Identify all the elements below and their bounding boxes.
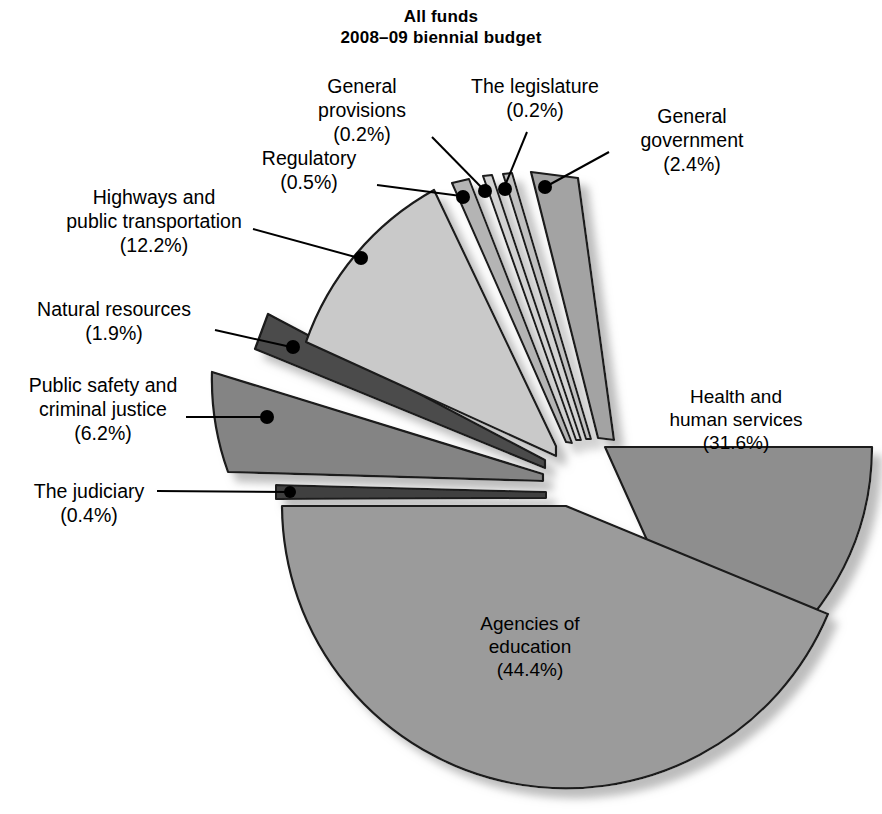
leader-dot-judiciary (284, 486, 296, 498)
leader-dot-the-legislature (498, 182, 512, 196)
callout-natural-resources-value: (1.9%) (16, 321, 212, 345)
slice-label-health-and-human-services: Health and human services (31.6%) (638, 385, 834, 454)
callout-general-provisions-line1: General (287, 74, 437, 98)
leader-dot-highways (354, 251, 368, 265)
pie-slice-the-judiciary[interactable] (276, 485, 546, 499)
leader-line-highways (253, 229, 359, 258)
callout-general-government-value: (2.4%) (601, 152, 783, 176)
leader-dot-public-safety (260, 410, 274, 424)
callout-highways-value: (12.2%) (56, 233, 252, 257)
leader-dot-natural-resources (286, 340, 300, 354)
pie-chart: All funds 2008–09 biennial budget (0, 0, 882, 814)
callout-the-judiciary-value: (0.4%) (22, 503, 156, 527)
slice-label-health-line2: human services (638, 408, 834, 431)
callout-highways-line2: public transportation (56, 209, 252, 233)
callout-general-government: General government (2.4%) (601, 104, 783, 176)
leader-dot-general-government (538, 180, 552, 194)
callout-public-safety-line1: Public safety and (20, 373, 186, 397)
slice-label-education-line1: Agencies of (432, 612, 628, 635)
slice-label-agencies-of-education: Agencies of education (44.4%) (432, 612, 628, 681)
callout-natural-resources: Natural resources (1.9%) (16, 297, 212, 345)
callout-general-government-line2: government (601, 128, 783, 152)
callout-regulatory: Regulatory (0.5%) (241, 146, 377, 194)
callout-natural-resources-line1: Natural resources (16, 297, 212, 321)
callout-highways-and-public-transportation: Highways and public transportation (12.2… (56, 185, 252, 257)
leader-dot-general-provisions (478, 184, 492, 198)
callout-general-provisions-value: (0.2%) (287, 122, 437, 146)
callout-regulatory-line1: Regulatory (241, 146, 377, 170)
callout-highways-line1: Highways and (56, 185, 252, 209)
leader-line-regulatory (377, 185, 461, 196)
slice-label-health-line1: Health and (638, 385, 834, 408)
callout-public-safety-line2: criminal justice (20, 397, 186, 421)
slice-label-health-value: (31.6%) (638, 431, 834, 454)
callout-general-government-line1: General (601, 104, 783, 128)
callout-the-legislature-value: (0.2%) (455, 98, 615, 122)
callout-the-legislature: The legislature (0.2%) (455, 74, 615, 122)
slice-label-education-value: (44.4%) (432, 658, 628, 681)
callout-the-judiciary-line1: The judiciary (22, 479, 156, 503)
callout-public-safety-and-criminal-justice: Public safety and criminal justice (6.2%… (20, 373, 186, 445)
leader-line-judiciary (157, 491, 288, 492)
callout-the-judiciary: The judiciary (0.4%) (22, 479, 156, 527)
callout-public-safety-value: (6.2%) (20, 421, 186, 445)
callout-general-provisions-line2: provisions (287, 98, 437, 122)
leader-dot-regulatory (456, 190, 470, 204)
callout-general-provisions: General provisions (0.2%) (287, 74, 437, 146)
leader-line-the-legislature (504, 132, 527, 188)
callout-the-legislature-line1: The legislature (455, 74, 615, 98)
callout-regulatory-value: (0.5%) (241, 170, 377, 194)
slice-label-education-line2: education (432, 635, 628, 658)
